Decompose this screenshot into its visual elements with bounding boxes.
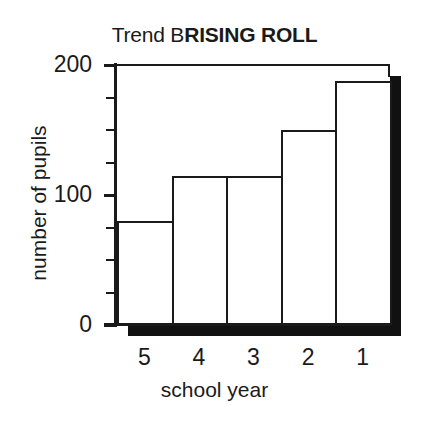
- y-axis-tick-major: [104, 64, 117, 67]
- y-axis-tick-label: 100: [2, 183, 92, 206]
- plot-area: [117, 65, 390, 325]
- x-axis-tick-label: 3: [224, 344, 284, 370]
- plot-top-frame: [117, 64, 390, 66]
- y-axis-tick-minor: [106, 292, 117, 294]
- x-axis-tick-label: 4: [169, 344, 229, 370]
- bar: [172, 176, 229, 326]
- y-axis-tick-minor: [106, 97, 117, 99]
- y-axis-tick-major: [104, 194, 117, 197]
- bar: [117, 221, 174, 325]
- x-axis-tick-label: 5: [114, 344, 174, 370]
- y-axis-tick-minor: [106, 129, 117, 131]
- x-axis-tick-label: 2: [278, 344, 338, 370]
- bar: [281, 130, 338, 325]
- bar: [335, 81, 392, 325]
- chart-shadow-bottom: [128, 325, 401, 336]
- plot-right-frame: [388, 65, 390, 77]
- x-axis-tick-label: 1: [333, 344, 393, 370]
- bar: [226, 176, 283, 326]
- y-axis-tick-label: 200: [2, 53, 92, 76]
- y-axis-tick-label: 0: [2, 313, 92, 336]
- y-axis-tick-minor: [106, 227, 117, 229]
- y-axis-tick-major: [104, 324, 117, 327]
- y-axis-tick-minor: [106, 162, 117, 164]
- bar-chart-figure: Trend BRISING ROLL number of pupils 0100…: [0, 0, 429, 428]
- y-axis-tick-minor: [106, 259, 117, 261]
- chart-title: Trend BRISING ROLL: [0, 22, 429, 48]
- chart-title-regular: Trend B: [112, 23, 185, 46]
- chart-title-bold: RISING ROLL: [184, 23, 317, 46]
- x-axis-title: school year: [0, 378, 429, 402]
- x-axis-line: [104, 323, 391, 326]
